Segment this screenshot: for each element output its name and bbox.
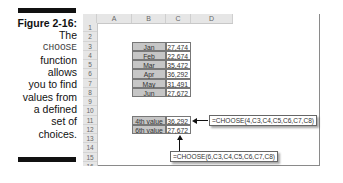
row-header[interactable]: 13 [83, 134, 97, 143]
cell-b3[interactable]: Jan [132, 42, 166, 51]
cell-b12[interactable]: 6th value [132, 125, 166, 134]
row-header[interactable]: 2 [83, 32, 97, 41]
cell-b4[interactable]: Feb [132, 51, 166, 60]
row-header[interactable]: 14 [83, 143, 97, 152]
column-header-a[interactable]: A [97, 14, 132, 23]
select-all-corner[interactable] [83, 14, 97, 23]
column-header-b[interactable]: B [132, 14, 166, 23]
cell-c4[interactable]: 22,674 [166, 51, 191, 60]
caption-line: allows [4, 66, 77, 78]
cell-b5[interactable]: Mar [132, 60, 166, 69]
cell-b8[interactable]: Jun [132, 88, 166, 97]
figure-caption: Figure 2-16: The CHOOSE function allows … [4, 17, 77, 140]
caption-line: values from [4, 91, 77, 103]
cell-b6[interactable]: Apr [132, 69, 166, 78]
caption-function-name: CHOOSE [4, 42, 77, 54]
cell-c12[interactable]: 27,672 [166, 125, 191, 134]
cell-c8[interactable]: 27,672 [166, 88, 191, 97]
figure-label: Figure 2-16: [4, 17, 77, 29]
spreadsheet: A B C D 1 2 3 4 5 6 7 8 9 10 11 12 13 14… [83, 14, 320, 166]
caption-line: a defined [4, 103, 77, 115]
caption-line: function [4, 54, 77, 66]
row-header[interactable]: 12 [83, 125, 97, 134]
column-header-c[interactable]: C [166, 14, 191, 23]
arrow-up-icon [179, 139, 180, 151]
row-header[interactable]: 4 [83, 51, 97, 60]
row-header-bar: 1 2 3 4 5 6 7 8 9 10 11 12 13 14 15 16 [83, 23, 98, 166]
arrow-left-icon [196, 120, 208, 121]
row-header[interactable]: 15 [83, 153, 97, 162]
row-header[interactable]: 16 [83, 162, 97, 166]
caption-line: The [4, 29, 77, 41]
formula-callout-6th: =CHOOSE(6,C3,C4,C5,C6,C7,C8) [170, 151, 278, 162]
cell-c5[interactable]: 35,472 [166, 60, 191, 69]
cell-c11[interactable]: 36,292 [166, 116, 191, 125]
row-header[interactable]: 5 [83, 60, 97, 69]
row-header[interactable]: 6 [83, 69, 97, 78]
row-header[interactable]: 9 [83, 97, 97, 106]
row-header[interactable]: 10 [83, 106, 97, 115]
cell-b7[interactable]: May [132, 79, 166, 88]
row-header[interactable]: 1 [83, 23, 97, 32]
formula-callout-4th: =CHOOSE(4,C3,C4,C5,C6,C7,C8) [209, 115, 317, 126]
row-header[interactable]: 11 [83, 116, 97, 125]
row-header[interactable]: 3 [83, 42, 97, 51]
caption-line: choices. [4, 128, 77, 140]
column-header-bar: A B C D [83, 14, 233, 24]
cell-c6[interactable]: 36,292 [166, 69, 191, 78]
cell-c3[interactable]: 27,474 [166, 42, 191, 51]
cell-b11[interactable]: 4th value [132, 116, 166, 125]
caption-top-rule [18, 8, 76, 13]
row-header[interactable]: 7 [83, 79, 97, 88]
column-header-d[interactable]: D [191, 14, 233, 23]
caption-line: you to find [4, 78, 77, 90]
caption-bottom-rule [18, 157, 76, 162]
row-header[interactable]: 8 [83, 88, 97, 97]
cell-c7[interactable]: 31,491 [166, 79, 191, 88]
caption-line: set of [4, 115, 77, 127]
